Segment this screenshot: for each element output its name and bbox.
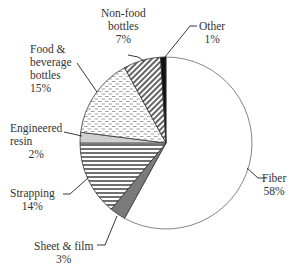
label-food-name2: beverage	[30, 56, 72, 69]
label-nonfood-name2: bottles	[101, 20, 146, 33]
label-nonfood-pct: 7%	[101, 33, 146, 46]
pie-slices	[80, 57, 252, 229]
label-other-pct: 1%	[199, 33, 225, 46]
leader-strapping	[63, 178, 88, 194]
label-food-beverage-bottles: Food & beverage bottles 15%	[30, 43, 72, 95]
label-food-pct: 15%	[30, 82, 72, 95]
label-strapping-name: Strapping	[10, 187, 55, 200]
label-nonfood-name1: Non-food	[101, 7, 146, 20]
label-strapping: Strapping 14%	[10, 187, 55, 213]
label-other: Other 1%	[199, 20, 225, 46]
leader-food	[77, 63, 97, 92]
label-resin-pct: 2%	[10, 148, 62, 161]
label-sheet-pct: 3%	[34, 253, 93, 266]
leader-resin	[64, 132, 82, 136]
label-engineered-resin: Engineered resin 2%	[10, 122, 62, 161]
label-sheet-name: Sheet & film	[34, 240, 93, 253]
label-other-name: Other	[199, 20, 225, 33]
leader-sheet	[97, 216, 117, 245]
leader-other	[165, 26, 197, 57]
label-resin-name2: resin	[10, 135, 62, 148]
label-fiber-pct: 58%	[262, 185, 286, 198]
label-non-food-bottles: Non-food bottles 7%	[101, 7, 146, 46]
label-food-name3: bottles	[30, 69, 72, 82]
label-resin-name1: Engineered	[10, 122, 62, 135]
label-sheet-film: Sheet & film 3%	[34, 240, 93, 266]
label-strapping-pct: 14%	[10, 200, 55, 213]
label-fiber: Fiber 58%	[262, 172, 286, 198]
label-fiber-name: Fiber	[262, 172, 286, 185]
label-food-name1: Food &	[30, 43, 72, 56]
